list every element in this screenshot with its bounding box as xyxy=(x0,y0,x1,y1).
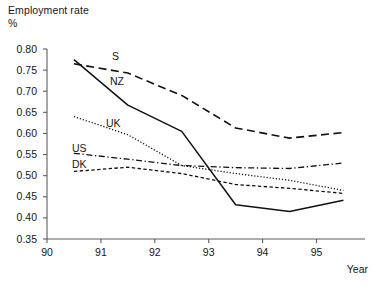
y-tick-label: 0.75 xyxy=(17,64,38,76)
series-label-dk: DK xyxy=(72,158,87,170)
y-tick-label: 0.50 xyxy=(17,169,38,181)
x-tick-label: 93 xyxy=(203,246,215,258)
y-axis-tick-marks xyxy=(43,49,47,239)
chart-plot-area: 0.350.400.450.500.550.600.650.700.750.80… xyxy=(0,0,374,287)
x-axis-tick-marks xyxy=(47,239,316,243)
series-line-us xyxy=(74,153,343,168)
x-axis-title: Year xyxy=(347,263,368,275)
series-inline-labels: SNZUKUSDK xyxy=(72,50,125,170)
series-line-dk xyxy=(74,167,343,193)
series-label-uk: UK xyxy=(106,117,121,129)
x-tick-label: 95 xyxy=(311,246,323,258)
x-tick-label: 91 xyxy=(95,246,107,258)
series-label-us: US xyxy=(72,142,87,154)
y-tick-label: 0.80 xyxy=(17,43,38,55)
series-label-s: S xyxy=(112,50,119,62)
y-tick-label: 0.60 xyxy=(17,127,38,139)
x-tick-label: 90 xyxy=(41,246,53,258)
series-label-nz: NZ xyxy=(110,75,125,87)
x-axis-tick-labels: 909192939495 xyxy=(41,246,322,258)
y-tick-label: 0.40 xyxy=(17,211,38,223)
y-tick-label: 0.55 xyxy=(17,148,38,160)
x-tick-label: 92 xyxy=(149,246,161,258)
y-tick-label: 0.45 xyxy=(17,190,38,202)
y-tick-label: 0.65 xyxy=(17,106,38,118)
y-tick-label: 0.70 xyxy=(17,85,38,97)
y-axis-tick-labels: 0.350.400.450.500.550.600.650.700.750.80 xyxy=(17,43,38,245)
employment-rate-chart-figure: Employment rate % 0.350.400.450.500.550.… xyxy=(0,0,374,287)
x-tick-label: 94 xyxy=(257,246,269,258)
y-tick-label: 0.35 xyxy=(17,233,38,245)
